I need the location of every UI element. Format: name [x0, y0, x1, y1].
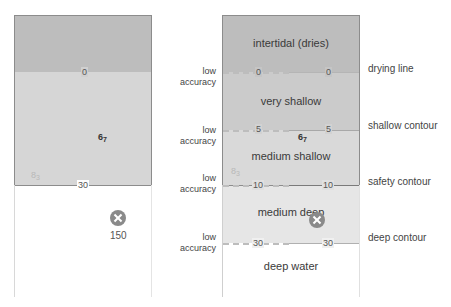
band-label-medium-shallow: medium shallow [222, 150, 360, 162]
contour-name-drying-line: drying line [368, 63, 414, 74]
band-label-intertidal: intertidal (dries) [222, 37, 360, 49]
sounding-decimal: 3 [36, 174, 40, 181]
sounding-decimal: 3 [236, 170, 240, 177]
contour-name-deep-contour: deep contour [368, 232, 426, 243]
low-accuracy-line1: low [156, 173, 216, 184]
left-sounding-83: 83 [31, 170, 40, 181]
low-accuracy-line2: accuracy [156, 136, 216, 147]
depth-5-left: 5 [255, 124, 262, 134]
right-sounding-67: 67 [298, 132, 307, 143]
contour-name-shallow-contour: shallow contour [368, 120, 437, 131]
low-accuracy-line2: accuracy [156, 77, 216, 88]
contour-line-0 [289, 72, 359, 73]
low-accuracy-label-10: low accuracy [156, 173, 216, 195]
depth-30-right: 30 [322, 238, 334, 248]
depth-30-left: 30 [252, 238, 264, 248]
right-panel-edge [222, 185, 223, 297]
wreck-icon [110, 210, 126, 226]
sounding-decimal: 7 [303, 136, 307, 143]
low-accuracy-line2: accuracy [156, 243, 216, 254]
depth-10-left: 10 [252, 180, 264, 190]
left-panel-edge [14, 185, 15, 297]
right-panel-edge [359, 185, 360, 297]
left-panel-edge [151, 185, 152, 297]
wreck-icon [309, 212, 325, 228]
depth-10-right: 10 [322, 180, 334, 190]
left-panel-outline [14, 15, 152, 186]
band-label-medium-deep: medium deep [222, 206, 360, 218]
low-accuracy-line2: accuracy [156, 184, 216, 195]
sounding-decimal: 7 [103, 136, 107, 143]
left-depth-panel: 0 30 67 83 150 [14, 15, 152, 297]
low-accuracy-label-5: low accuracy [156, 125, 216, 147]
right-sounding-83: 83 [231, 166, 240, 177]
left-sounding-67: 67 [98, 132, 107, 143]
depth-0-left: 0 [255, 67, 262, 77]
depth-0-right: 0 [325, 67, 332, 77]
band-label-very-shallow: very shallow [222, 95, 360, 107]
left-contour-0-label: 0 [81, 67, 88, 77]
contour-name-safety-contour: safety contour [368, 176, 431, 187]
low-accuracy-line1: low [156, 232, 216, 243]
low-accuracy-label-30: low accuracy [156, 232, 216, 254]
low-accuracy-line1: low [156, 125, 216, 136]
depth-5-right: 5 [325, 124, 332, 134]
left-contour-30-label: 30 [77, 180, 89, 190]
low-accuracy-label-0: low accuracy [156, 66, 216, 88]
low-accuracy-line1: low [156, 66, 216, 77]
band-label-deep-water: deep water [222, 260, 360, 272]
wreck-depth-label: 150 [110, 230, 127, 241]
right-depth-panel: intertidal (dries) very shallow medium s… [222, 15, 360, 297]
contour-line-5 [289, 130, 359, 131]
